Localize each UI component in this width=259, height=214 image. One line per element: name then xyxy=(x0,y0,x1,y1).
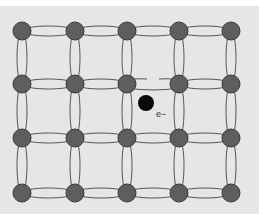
free-electron-label: e− xyxy=(156,109,166,119)
atom xyxy=(13,129,31,147)
atom xyxy=(118,75,136,93)
atom xyxy=(118,129,136,147)
atom xyxy=(170,129,188,147)
atom xyxy=(170,184,188,202)
atom xyxy=(170,22,188,40)
atom xyxy=(66,22,84,40)
atom xyxy=(222,22,240,40)
atom xyxy=(222,75,240,93)
atom xyxy=(13,22,31,40)
lattice-svg: e− xyxy=(0,0,259,214)
atom xyxy=(222,129,240,147)
free-electron xyxy=(138,95,154,111)
atom xyxy=(66,184,84,202)
atom xyxy=(118,22,136,40)
atom xyxy=(118,184,136,202)
atom xyxy=(66,75,84,93)
atom xyxy=(66,129,84,147)
lattice-diagram: e− xyxy=(0,0,259,214)
atom xyxy=(13,75,31,93)
atom xyxy=(222,184,240,202)
atom xyxy=(13,184,31,202)
atom xyxy=(170,75,188,93)
